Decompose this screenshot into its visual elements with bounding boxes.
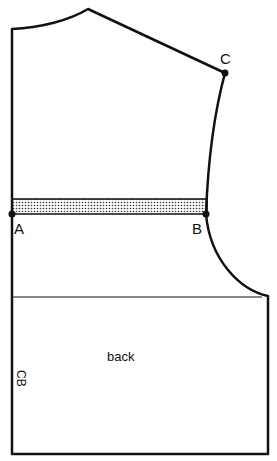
center-back-label: CB bbox=[14, 370, 28, 387]
pattern-outline bbox=[12, 9, 268, 454]
label-a: A bbox=[14, 220, 24, 237]
shaded-band bbox=[12, 199, 207, 214]
label-b: B bbox=[192, 220, 202, 237]
point-a-marker bbox=[9, 211, 16, 218]
point-c-marker bbox=[222, 70, 229, 77]
label-c: C bbox=[220, 50, 231, 67]
piece-name-label: back bbox=[107, 349, 135, 364]
point-b-marker bbox=[203, 211, 210, 218]
pattern-diagram: A B C back CB bbox=[0, 0, 277, 461]
